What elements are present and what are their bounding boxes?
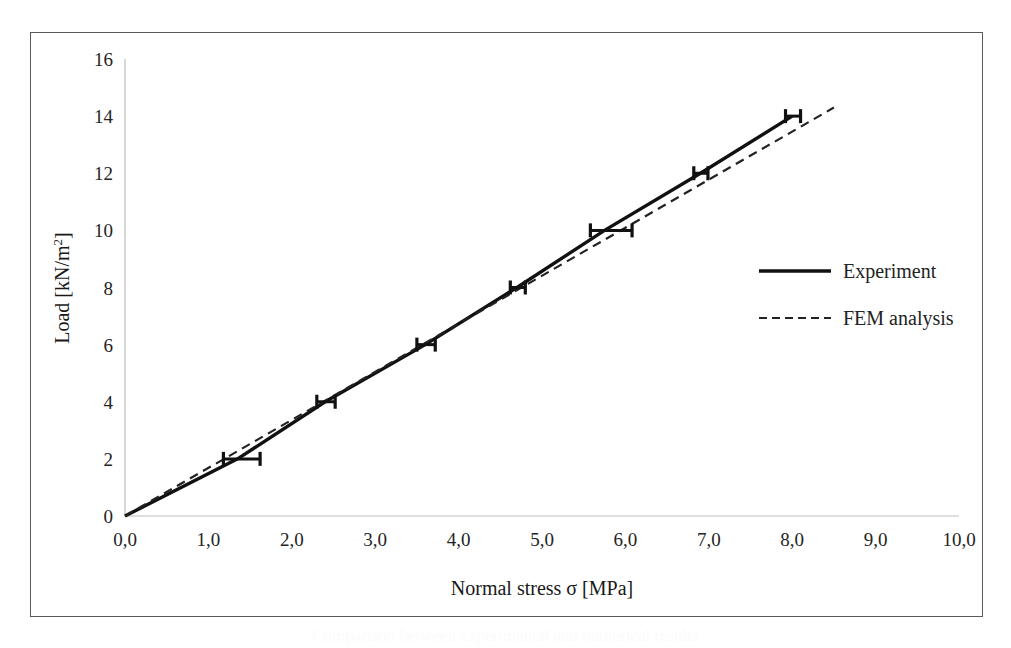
x-tick-label: 2,0: [280, 529, 304, 550]
y-tick-label: 14: [94, 106, 114, 127]
y-axis-title-base: Load [kN/m: [51, 245, 73, 344]
series-layer: [125, 108, 834, 516]
series-line-fem-analysis: [125, 108, 834, 516]
x-tick-label: 5,0: [530, 529, 554, 550]
x-tick-label: 4,0: [447, 529, 471, 550]
line-chart: 0246810121416 0,01,02,03,04,05,06,07,08,…: [31, 33, 984, 618]
y-tick-label: 8: [104, 278, 114, 299]
figure-caption-ghost: Comparison between experimental and nume…: [0, 624, 1011, 648]
x-tick-label: 6,0: [614, 529, 638, 550]
x-tick-label: 7,0: [697, 529, 721, 550]
y-tick-labels: 0246810121416: [94, 49, 114, 527]
y-tick-label: 2: [104, 449, 114, 470]
x-axis-title: Normal stress σ [MPa]: [451, 577, 633, 599]
error-bar: [786, 109, 801, 123]
figure-frame: 0246810121416 0,01,02,03,04,05,06,07,08,…: [30, 32, 983, 617]
y-axis-title-tail: ]: [51, 232, 73, 239]
axis-lines: [125, 59, 959, 516]
x-tick-label: 10,0: [942, 529, 975, 550]
x-tick-label: 0,0: [113, 529, 137, 550]
chart-plot-area: 0246810121416 0,01,02,03,04,05,06,07,08,…: [31, 33, 984, 618]
y-tick-label: 16: [94, 49, 113, 70]
y-axis-title: Load [kN/m2]: [50, 232, 73, 343]
y-tick-label: 10: [94, 220, 113, 241]
series-line-experiment: [125, 116, 792, 516]
chart-legend: Experiment FEM analysis: [759, 260, 954, 330]
y-tick-label: 6: [104, 335, 114, 356]
x-tick-labels: 0,01,02,03,04,05,06,07,08,09,010,0: [113, 529, 976, 550]
legend-label-fem-analysis: FEM analysis: [843, 307, 954, 330]
x-tick-label: 3,0: [363, 529, 387, 550]
x-tick-label: 8,0: [780, 529, 804, 550]
y-tick-label: 4: [104, 392, 114, 413]
x-tick-label: 1,0: [197, 529, 221, 550]
svg-text:Load [kN/m2]: Load [kN/m2]: [50, 232, 73, 343]
y-tick-label: 0: [104, 506, 114, 527]
legend-label-experiment: Experiment: [843, 260, 937, 283]
x-tick-label: 9,0: [864, 529, 888, 550]
y-tick-label: 12: [94, 163, 113, 184]
